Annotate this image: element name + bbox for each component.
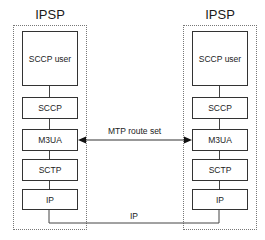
ip-link-label: IP [130, 211, 138, 221]
mtp-route-arrow [0, 0, 265, 240]
mtp-route-set-label: MTP route set [108, 126, 161, 136]
